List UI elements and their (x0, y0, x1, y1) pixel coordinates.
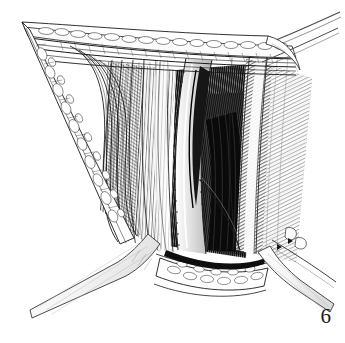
surgical-illustration: Surgical exposure, figure 6 (0, 0, 345, 343)
figure-container: Surgical exposure, figure 6 (0, 0, 345, 343)
figure-number: 6 (321, 306, 332, 327)
